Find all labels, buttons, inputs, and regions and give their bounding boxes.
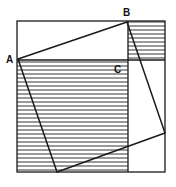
label-b: B xyxy=(123,7,130,18)
hatched-region-large xyxy=(17,60,128,172)
pythagoras-diagram: A B C xyxy=(0,0,176,187)
label-c: C xyxy=(114,64,121,75)
label-a: A xyxy=(6,54,13,65)
